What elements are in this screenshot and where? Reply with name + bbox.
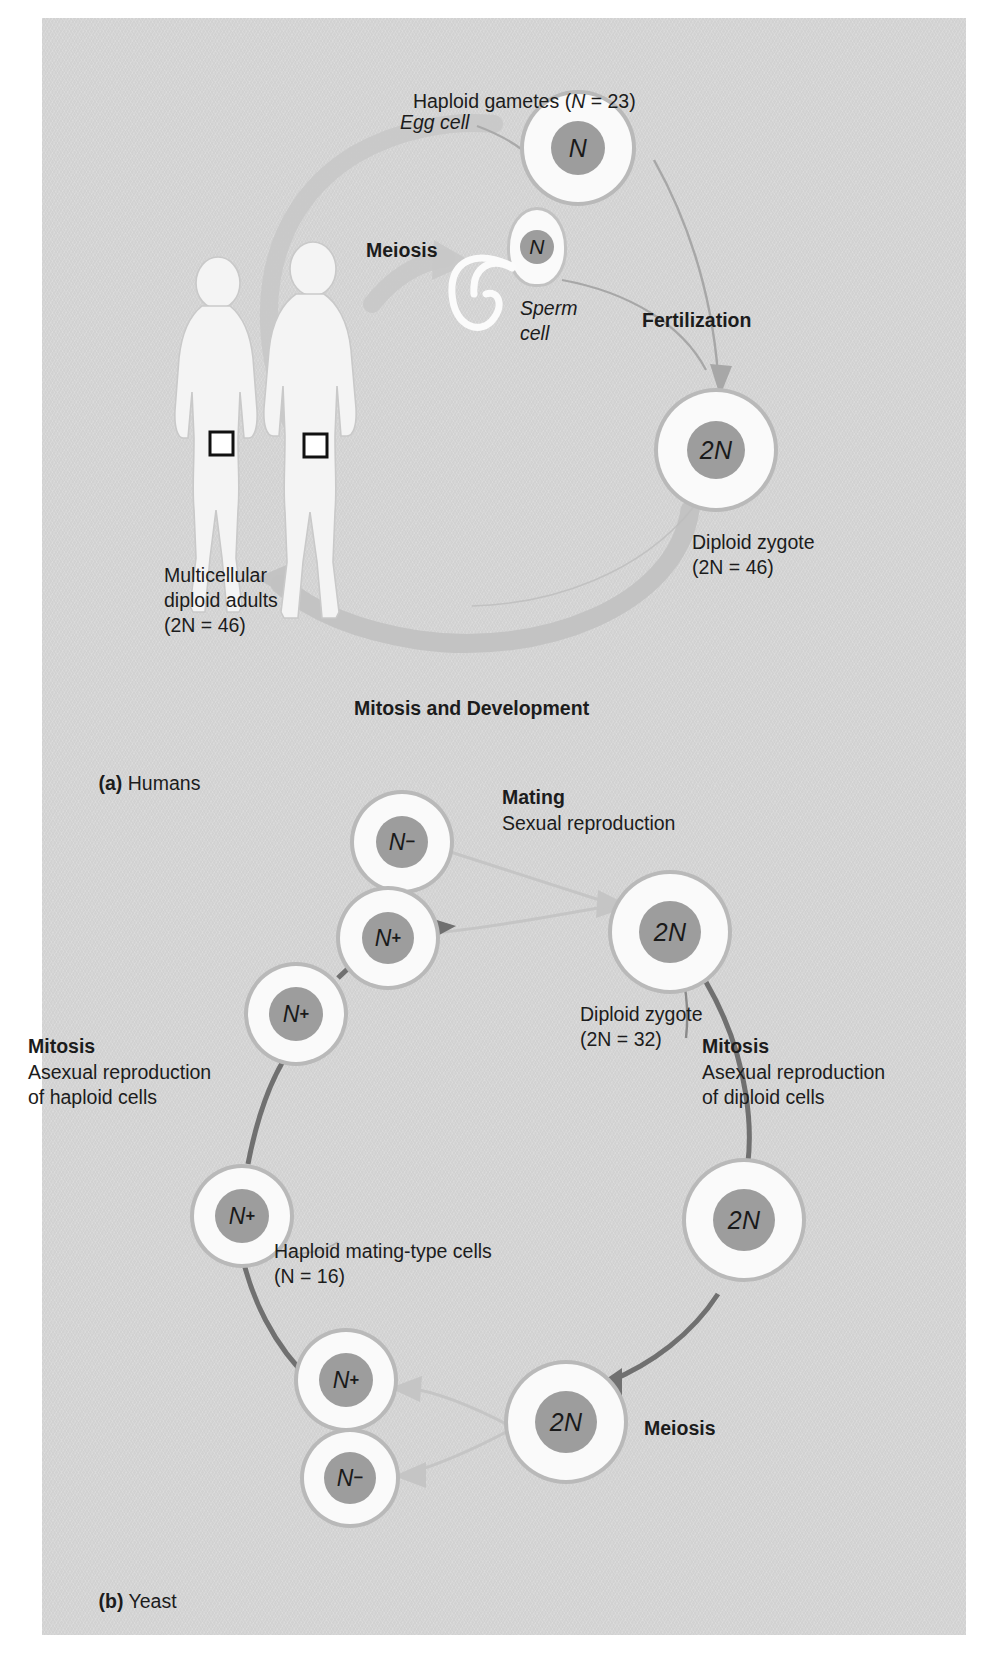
panel-a-caption-name: Humans bbox=[128, 772, 201, 794]
panel-a-caption: (a) Humans bbox=[66, 746, 200, 821]
panel-b-caption: (b) Yeast bbox=[66, 1564, 177, 1639]
figure-root: N N 2N Haploid gametes (N = 23) Egg cell… bbox=[0, 0, 1008, 1653]
haploid-mating-type-label-1: Haploid mating-type cells bbox=[274, 1239, 492, 1264]
yeast-cell-diploid-mid: 2N bbox=[686, 1162, 802, 1278]
mitosis-left-line2: of haploid cells bbox=[28, 1085, 157, 1110]
haploid-mating-type-label-2: (N = 16) bbox=[274, 1264, 345, 1289]
yeast-cell-zygote: 2N bbox=[612, 874, 728, 990]
yeast-cell-haploid-plus-upper: N+ bbox=[248, 966, 344, 1062]
haploid-gametes-n: N bbox=[571, 90, 585, 112]
mitosis-right-title: Mitosis bbox=[702, 1034, 769, 1059]
nucleus-zygote-2n: 2N bbox=[639, 901, 701, 963]
yeast-cell-gamete-minus-top: N− bbox=[354, 794, 450, 890]
mitosis-right-line1: Asexual reproduction bbox=[702, 1060, 885, 1085]
nucleus-n-plus-top: N+ bbox=[362, 912, 414, 964]
sperm-cell-label-1: Sperm bbox=[520, 296, 577, 321]
nucleus-n-minus-product: N− bbox=[324, 1452, 376, 1504]
nucleus-n-plus-upper: N+ bbox=[269, 987, 323, 1041]
panel-yeast: N− N+ 2N N+ 2N N+ 2N N+ N− Mating Sexual… bbox=[42, 786, 966, 1635]
haploid-gametes-heading: Haploid gametes (N = 23) bbox=[308, 64, 708, 139]
zygote-label-a-2: (2N = 46) bbox=[692, 555, 774, 580]
nucleus-n-plus-product: N+ bbox=[319, 1353, 373, 1407]
meiosis-label-a: Meiosis bbox=[366, 238, 438, 263]
panel-humans: N N 2N Haploid gametes (N = 23) Egg cell… bbox=[42, 18, 966, 786]
yeast-cell-gamete-plus-top: N+ bbox=[340, 890, 436, 986]
yeast-cell-diploid-low: 2N bbox=[508, 1364, 624, 1480]
mitosis-left-title: Mitosis bbox=[28, 1034, 95, 1059]
adults-label-2: diploid adults bbox=[164, 588, 278, 613]
mating-sublabel: Sexual reproduction bbox=[502, 811, 675, 836]
meiosis-label-b: Meiosis bbox=[644, 1416, 716, 1441]
mitosis-left-line1: Asexual reproduction bbox=[28, 1060, 211, 1085]
nucleus-diploid-mid-2n: 2N bbox=[713, 1189, 775, 1251]
panel-b-caption-prefix: (b) bbox=[99, 1590, 124, 1612]
panel-a-caption-prefix: (a) bbox=[99, 772, 123, 794]
nucleus-n-plus-lower: N+ bbox=[215, 1189, 269, 1243]
egg-cell-label: Egg cell bbox=[400, 110, 469, 135]
zygote-label-b-2: (2N = 32) bbox=[580, 1027, 662, 1052]
mating-label: Mating bbox=[502, 785, 565, 810]
haploid-gametes-tail: = 23) bbox=[585, 90, 635, 112]
zygote-label-a-1: Diploid zygote bbox=[692, 530, 814, 555]
nucleus-diploid-low-2n: 2N bbox=[535, 1391, 597, 1453]
adults-label-3: (2N = 46) bbox=[164, 613, 246, 638]
yeast-cell-meiosis-product-minus: N− bbox=[304, 1432, 396, 1524]
panel-b-caption-name: Yeast bbox=[129, 1590, 177, 1612]
cycle-arrows-b bbox=[42, 786, 966, 1635]
haploid-gametes-lead: Haploid gametes ( bbox=[413, 90, 571, 112]
nucleus-n-minus-top: N− bbox=[376, 816, 428, 868]
adults-label-1: Multicellular bbox=[164, 563, 267, 588]
mitosis-development-label: Mitosis and Development bbox=[354, 696, 589, 721]
zygote-label-b-1: Diploid zygote bbox=[580, 1002, 702, 1027]
fertilization-label: Fertilization bbox=[642, 308, 751, 333]
sperm-cell-label-2: cell bbox=[520, 321, 549, 346]
yeast-cell-meiosis-product-plus: N+ bbox=[298, 1332, 394, 1428]
mitosis-right-line2: of diploid cells bbox=[702, 1085, 824, 1110]
